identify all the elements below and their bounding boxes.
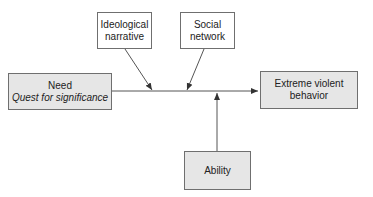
ability-box: Ability bbox=[184, 151, 251, 190]
need-box: Need Quest for significance bbox=[8, 73, 112, 110]
outcome-line2: behavior bbox=[290, 90, 328, 102]
ideological-arrow bbox=[125, 49, 152, 90]
ability-label: Ability bbox=[204, 165, 231, 177]
ideological-narrative-box: Ideological narrative bbox=[97, 12, 152, 49]
social-line2: network bbox=[190, 31, 225, 43]
social-line1: Social bbox=[194, 19, 221, 31]
extreme-violent-behavior-box: Extreme violent behavior bbox=[260, 71, 358, 109]
social-network-box: Social network bbox=[180, 12, 235, 49]
social-arrow bbox=[187, 49, 204, 90]
need-title: Need bbox=[48, 80, 72, 92]
need-subtitle: Quest for significance bbox=[12, 92, 108, 104]
outcome-line1: Extreme violent bbox=[275, 78, 344, 90]
ideological-line1: Ideological bbox=[101, 19, 149, 31]
ideological-line2: narrative bbox=[105, 31, 144, 43]
